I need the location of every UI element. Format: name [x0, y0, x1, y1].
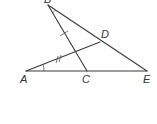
label-c: C: [82, 73, 90, 85]
angle-arc-b: [53, 10, 56, 13]
segment-bc: [48, 5, 87, 71]
label-b: B: [44, 0, 51, 5]
geometry-diagram: B A C D E: [0, 0, 157, 124]
segment-ad: [26, 42, 100, 71]
segment-be: [48, 5, 147, 71]
label-e: E: [143, 73, 151, 85]
label-a: A: [19, 73, 27, 85]
label-d: D: [101, 28, 109, 40]
angle-arc-a: [43, 64, 44, 71]
